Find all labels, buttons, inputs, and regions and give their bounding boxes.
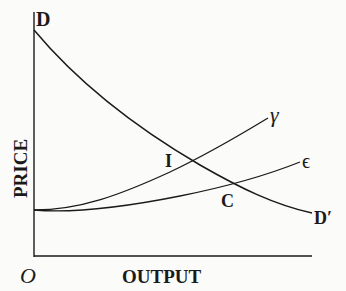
gamma-label: γ [270, 102, 280, 127]
demand-start-label: D [36, 8, 50, 30]
point-i-label: I [165, 151, 172, 171]
origin-label: O [20, 263, 36, 288]
point-c-label: C [221, 191, 234, 211]
price-output-diagram: D D′ γ ϵ I C O OUTPUT PRICE [0, 0, 346, 291]
y-axis-label: PRICE [10, 139, 31, 198]
epsilon-label: ϵ [302, 150, 310, 172]
x-axis-label: OUTPUT [122, 266, 202, 287]
demand-end-label: D′ [314, 208, 332, 228]
